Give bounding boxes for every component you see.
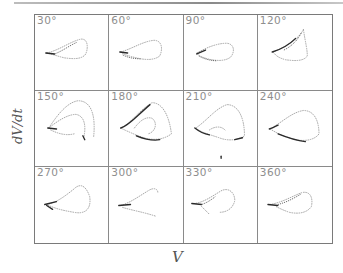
panel-90: 90° (184, 15, 258, 91)
panel-180: 180° (109, 91, 183, 167)
phase-curve (258, 91, 332, 166)
phase-curve (35, 15, 108, 90)
panel-120: 120° (258, 15, 332, 91)
top-rule (14, 2, 343, 4)
panel-150: 150° (35, 91, 109, 167)
phase-curve (184, 91, 257, 166)
y-axis-label: dV/dt (10, 114, 25, 144)
panel-270: 270° (35, 167, 109, 243)
panel-300: 300° (109, 167, 183, 243)
phase-curve (258, 15, 332, 90)
phase-curve (109, 91, 182, 166)
phase-curve (109, 15, 182, 90)
phase-curve (109, 167, 182, 243)
phase-curve (184, 15, 257, 90)
phase-plane-grid: 30° 60° 90° 120° 150° (34, 14, 333, 244)
panel-30: 30° (35, 15, 109, 91)
panel-240: 240° (258, 91, 332, 167)
panel-60: 60° (109, 15, 183, 91)
x-axis-label: V (172, 248, 183, 266)
panel-330: 330° (184, 167, 258, 243)
phase-curve (258, 167, 332, 243)
phase-curve (184, 167, 257, 243)
phase-curve (35, 91, 108, 166)
panel-210: 210° (184, 91, 258, 167)
phase-curve (35, 167, 108, 243)
panel-360: 360° (258, 167, 332, 243)
